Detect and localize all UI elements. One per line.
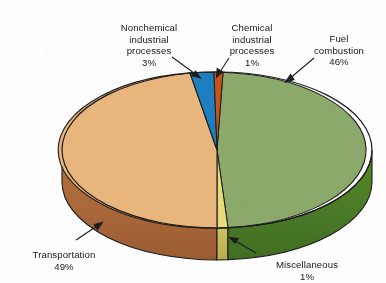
label-fuel-combustion: Fuel combustion 46% xyxy=(296,22,382,79)
label-chemical-name: Chemical industrial processes xyxy=(230,22,275,56)
label-miscellaneous-percent: 1% xyxy=(248,271,366,282)
slice-side-miscellaneous xyxy=(217,228,228,260)
label-chemical-percent: 1% xyxy=(208,57,296,68)
label-transportation-percent: 49% xyxy=(2,261,126,272)
label-fuel-name: Fuel combustion xyxy=(314,33,364,55)
label-nonchemical-percent: 3% xyxy=(92,57,206,68)
pie-chart-figure: Nonchemical industrial processes 3% Chem… xyxy=(0,0,386,283)
label-miscellaneous-name: Miscellaneous xyxy=(276,259,338,270)
label-transportation: Transportation 49% xyxy=(2,238,126,283)
pie-top-faces xyxy=(58,72,366,228)
label-fuel-percent: 46% xyxy=(296,56,382,67)
label-miscellaneous: Miscellaneous 1% xyxy=(248,248,366,283)
label-nonchemical-name: Nonchemical industrial processes xyxy=(121,22,178,56)
label-transportation-name: Transportation xyxy=(33,249,96,260)
label-nonchemical-industrial-processes: Nonchemical industrial processes 3% xyxy=(92,11,206,79)
label-chemical-industrial-processes: Chemical industrial processes 1% xyxy=(208,11,296,79)
